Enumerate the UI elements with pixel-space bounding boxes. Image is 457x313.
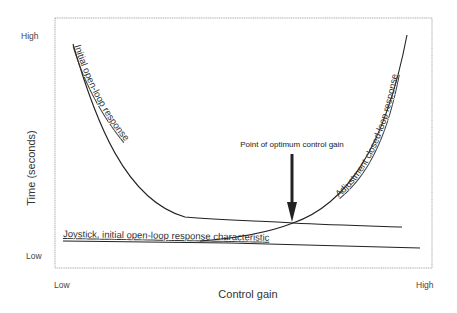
- y-tick-low: Low: [26, 251, 42, 261]
- x-axis-title: Control gain: [218, 288, 277, 300]
- adjustment-closed-loop-label: Adjustment closed-loop response: [333, 73, 400, 199]
- x-tick-low: Low: [54, 280, 70, 290]
- optimum-arrow-head-icon: [287, 202, 297, 222]
- y-tick-high: High: [21, 31, 39, 41]
- joystick-label: Joystick, initial open-loop response cha…: [63, 228, 270, 243]
- x-tick-high: High: [416, 280, 434, 290]
- gain-time-diagram: High Low Time (seconds) Low High Control…: [0, 0, 457, 313]
- y-axis-title: Time (seconds): [25, 130, 37, 205]
- optimum-point-label: Point of optimum control gain: [240, 140, 344, 149]
